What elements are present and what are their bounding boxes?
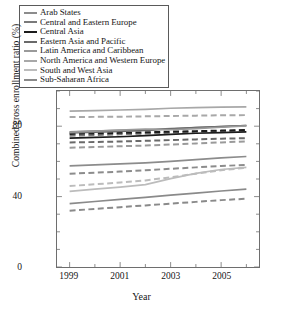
plot-lines — [57, 91, 259, 267]
legend-item: Sub-Saharan Africa — [23, 75, 165, 85]
legend-swatch-line-icon — [24, 31, 37, 33]
series-line-dashed — [70, 141, 247, 147]
series-line-solid — [70, 107, 247, 111]
x-axis-title: Year — [0, 291, 283, 302]
legend-swatch-line-icon — [24, 50, 37, 52]
series-line-solid — [70, 189, 247, 203]
chart-figure: Arab StatesCentral and Eastern EuropeCen… — [0, 0, 283, 314]
x-tick-label: 2005 — [205, 271, 239, 281]
series-line-dashed — [70, 115, 247, 117]
legend-swatch-line-icon — [24, 21, 37, 23]
x-tick-label: 2003 — [154, 271, 188, 281]
y-axis-title: Combined gross enrollment ratio (%) — [10, 7, 21, 185]
legend-swatch-line-icon — [24, 79, 37, 81]
series-line-solid — [70, 156, 247, 165]
chart-legend: Arab StatesCentral and Eastern EuropeCen… — [19, 5, 169, 88]
plot-area — [56, 90, 260, 268]
x-tick-label: 2001 — [103, 271, 137, 281]
series-line-dashed — [70, 199, 247, 211]
legend-swatch-line-icon — [24, 41, 37, 43]
y-tick-label: 80 — [0, 120, 22, 130]
legend-swatch-line-icon — [24, 69, 37, 71]
y-tick-label: 40 — [0, 191, 22, 201]
legend-item-label: Sub-Saharan Africa — [40, 75, 109, 85]
series-line-dashed — [70, 138, 247, 142]
legend-swatch-line-icon — [24, 60, 37, 62]
y-tick-label: 0 — [0, 262, 22, 272]
legend-swatch-line-icon — [24, 12, 37, 14]
x-tick-label: 1999 — [52, 271, 86, 281]
